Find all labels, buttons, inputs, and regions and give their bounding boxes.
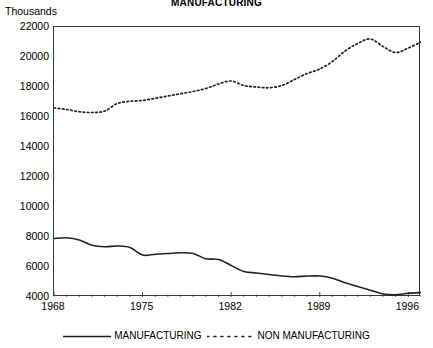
series-line-manufacturing bbox=[54, 238, 421, 295]
y-axis-tick-label: 18000 bbox=[3, 81, 49, 91]
y-axis-tick-label: 22000 bbox=[3, 21, 49, 31]
chart-legend: MANUFACTURING NON MANUFACTURING bbox=[0, 330, 433, 341]
y-axis-tick-label: 14000 bbox=[3, 141, 49, 151]
x-axis-tick-label: 1968 bbox=[41, 301, 64, 312]
y-axis-tick-label: 10000 bbox=[3, 201, 49, 211]
y-axis-tick-label: 12000 bbox=[3, 171, 49, 181]
y-axis-tick-label: 8000 bbox=[3, 231, 49, 241]
legend-dotted-line-icon bbox=[207, 331, 255, 341]
x-axis-tick-label: 1982 bbox=[218, 301, 241, 312]
legend-entry-manufacturing: MANUFACTURING bbox=[63, 330, 201, 341]
plot-lines bbox=[54, 27, 421, 297]
legend-label-non-manufacturing: NON MANUFACTURING bbox=[258, 330, 370, 341]
x-axis-ticks bbox=[54, 292, 421, 297]
y-axis-tick-label: 16000 bbox=[3, 111, 49, 121]
legend-solid-line-icon bbox=[63, 331, 111, 341]
y-axis-tick-label: 6000 bbox=[3, 261, 49, 271]
plot-area bbox=[53, 26, 420, 296]
x-axis-tick-label: 1975 bbox=[130, 301, 153, 312]
legend-label-manufacturing: MANUFACTURING bbox=[114, 330, 201, 341]
x-axis-tick-label: 1996 bbox=[396, 301, 419, 312]
y-axis-tick-label: 20000 bbox=[3, 51, 49, 61]
x-axis-tick-labels: 19681975198219891996 bbox=[0, 301, 433, 317]
chart-container: MANUFACTURING Thousands 4000600080001000… bbox=[0, 0, 433, 348]
chart-title: MANUFACTURING bbox=[0, 0, 433, 8]
series-line-non-manufacturing bbox=[54, 39, 421, 113]
x-axis-tick-label: 1989 bbox=[307, 301, 330, 312]
legend-entry-non-manufacturing: NON MANUFACTURING bbox=[207, 330, 370, 341]
y-axis-tick-labels: 4000600080001000012000140001600018000200… bbox=[0, 0, 49, 348]
